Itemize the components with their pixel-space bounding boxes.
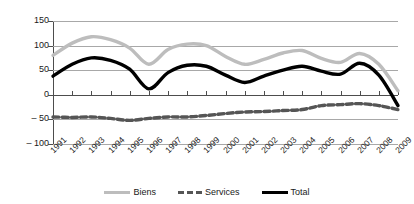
x-axis-tick-mark [206, 91, 207, 95]
y-axis-tick-mark [48, 46, 53, 47]
x-axis-labels: 1991199219931994199519961997199819992000… [0, 146, 414, 186]
x-axis-tick-mark [149, 91, 150, 95]
legend-item-services[interactable]: Services [178, 188, 240, 197]
y-axis-tick-label: 100 [3, 41, 49, 50]
plot-area [53, 21, 398, 144]
legend-label: Total [291, 188, 310, 197]
chart-legend: BiensServicesTotal [0, 184, 414, 200]
y-axis-tick-mark [48, 144, 53, 145]
y-axis-tick-label: – 50 [3, 114, 49, 123]
gridline [53, 46, 398, 47]
gridline [53, 21, 398, 22]
y-axis-tick-mark [48, 95, 53, 96]
line-solid-black-swatch [262, 191, 288, 194]
y-axis-tick-mark [48, 21, 53, 22]
legend-label: Biens [133, 188, 156, 197]
x-axis-tick-mark [341, 91, 342, 95]
x-axis-tick-mark [379, 91, 380, 95]
x-axis-tick-mark [302, 91, 303, 95]
x-axis-tick-mark [226, 91, 227, 95]
zero-axis-line [53, 95, 398, 96]
line-dashed-darkgray-swatch [178, 191, 202, 194]
x-axis-tick-mark [168, 91, 169, 95]
y-axis-tick-label: 50 [3, 65, 49, 74]
gridline [53, 119, 398, 120]
x-axis-tick-mark [72, 91, 73, 95]
line-chart: 150100500– 50– 100 199119921993199419951… [0, 0, 414, 204]
x-axis-tick-mark [130, 91, 131, 95]
x-axis-tick-mark [321, 91, 322, 95]
legend-item-biens[interactable]: Biens [104, 188, 156, 197]
x-axis-tick-mark [91, 91, 92, 95]
x-axis-tick-mark [111, 91, 112, 95]
x-axis-tick-mark [264, 91, 265, 95]
line-solid-gray-swatch [104, 191, 130, 194]
x-axis-tick-mark [187, 91, 188, 95]
x-axis-tick-mark [360, 91, 361, 95]
x-axis-tick-mark [398, 91, 399, 95]
legend-item-total[interactable]: Total [262, 188, 310, 197]
x-axis-tick-mark [245, 91, 246, 95]
x-axis-tick-mark [283, 91, 284, 95]
x-axis-tick-mark [53, 91, 54, 95]
y-axis-tick-label: 0 [3, 90, 49, 99]
y-axis-tick-mark [48, 70, 53, 71]
y-axis-tick-label: 150 [3, 16, 49, 25]
y-axis-tick-mark [48, 119, 53, 120]
legend-label: Services [205, 188, 240, 197]
gridline [53, 70, 398, 71]
